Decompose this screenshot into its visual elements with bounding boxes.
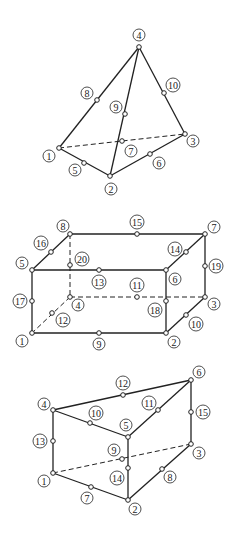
node-marker [189, 378, 194, 383]
svg-text:6: 6 [173, 274, 178, 285]
tetrahedron-figure: 4 1 2 3 5 6 7 8 9 10 [43, 29, 199, 195]
svg-text:19: 19 [211, 261, 221, 272]
hexahedron-figure: 1 2 3 4 5 6 7 8 9 10 11 12 13 14 15 16 1… [13, 215, 223, 350]
svg-text:10: 10 [91, 408, 101, 419]
svg-text:2: 2 [172, 337, 177, 348]
svg-text:5: 5 [20, 258, 25, 269]
node-marker [68, 263, 73, 268]
node-marker [126, 435, 131, 440]
node-label: 6 [169, 273, 181, 285]
svg-text:20: 20 [77, 254, 87, 265]
svg-text:5: 5 [124, 420, 129, 431]
node-marker [184, 250, 189, 255]
node-label: 19 [209, 259, 223, 273]
svg-text:9: 9 [112, 445, 117, 456]
node-label: 6 [153, 157, 165, 169]
node-marker [89, 485, 94, 490]
node-marker [189, 442, 194, 447]
node-label: 10 [89, 406, 103, 420]
node-label: 17 [13, 294, 27, 308]
node-marker [164, 299, 169, 304]
node-label: 1 [43, 150, 55, 162]
node-label: 12 [56, 313, 70, 327]
svg-text:2: 2 [109, 184, 114, 195]
node-label: 14 [110, 471, 124, 485]
node-label: 5 [120, 419, 132, 431]
svg-text:3: 3 [197, 448, 202, 459]
node-label: 13 [33, 434, 47, 448]
node-label: 5 [69, 164, 81, 176]
svg-text:12: 12 [118, 378, 128, 389]
node-label: 10 [189, 317, 203, 331]
node-marker [203, 295, 208, 300]
node-marker [50, 311, 55, 316]
node-label: 9 [108, 444, 120, 456]
node-marker [68, 232, 73, 237]
node-label: 3 [208, 298, 220, 310]
node-label: 3 [193, 447, 205, 459]
node-label: 4 [72, 299, 84, 311]
svg-text:15: 15 [198, 407, 208, 418]
node-marker [51, 439, 56, 444]
svg-text:8: 8 [85, 88, 90, 99]
node-marker [160, 467, 165, 472]
node-label: 2 [105, 183, 117, 195]
node-label: 10 [166, 78, 180, 92]
svg-text:16: 16 [36, 238, 46, 249]
node-marker [30, 299, 35, 304]
node-label: 14 [168, 242, 182, 256]
node-label: 8 [81, 87, 93, 99]
node-marker [203, 264, 208, 269]
node-marker [148, 152, 153, 157]
node-label: 2 [129, 503, 141, 515]
svg-text:6: 6 [197, 367, 202, 378]
node-label: 1 [38, 475, 50, 487]
node-marker [183, 132, 188, 137]
node-marker [97, 268, 102, 273]
svg-text:10: 10 [168, 80, 178, 91]
node-marker [126, 466, 131, 471]
node-marker [95, 98, 100, 103]
svg-text:18: 18 [150, 305, 160, 316]
svg-text:8: 8 [168, 472, 173, 483]
svg-text:14: 14 [112, 473, 122, 484]
node-label: 7 [125, 145, 137, 157]
node-marker [123, 112, 128, 117]
node-marker [108, 174, 113, 179]
node-label: 11 [130, 278, 144, 292]
node-label: 12 [116, 376, 130, 390]
node-label: 8 [57, 220, 69, 232]
svg-text:7: 7 [85, 493, 90, 504]
svg-text:1: 1 [42, 476, 47, 487]
svg-text:4: 4 [137, 30, 142, 41]
svg-text:1: 1 [47, 151, 52, 162]
node-label: 13 [92, 275, 106, 289]
svg-text:9: 9 [97, 339, 102, 350]
node-label: 15 [196, 405, 210, 419]
node-marker [162, 91, 167, 96]
node-marker [189, 410, 194, 415]
node-label: 5 [16, 257, 28, 269]
node-label: 9 [93, 338, 105, 350]
node-label: 11 [142, 396, 156, 410]
svg-text:9: 9 [114, 102, 119, 113]
node-marker [30, 331, 35, 336]
node-marker [51, 471, 56, 476]
node-label: 4 [38, 398, 50, 410]
svg-text:17: 17 [15, 296, 25, 307]
svg-text:4: 4 [42, 399, 47, 410]
svg-text:12: 12 [58, 315, 68, 326]
node-label: 6 [193, 366, 205, 378]
node-label: 15 [130, 215, 144, 229]
edge [128, 444, 191, 500]
node-marker [135, 232, 140, 237]
node-marker [137, 45, 142, 50]
node-marker [88, 421, 93, 426]
svg-text:5: 5 [73, 165, 78, 176]
node-marker [68, 295, 73, 300]
svg-text:13: 13 [35, 436, 45, 447]
node-label: 7 [81, 492, 93, 504]
node-marker [97, 331, 102, 336]
node-marker [82, 161, 87, 166]
svg-text:1: 1 [20, 336, 25, 347]
